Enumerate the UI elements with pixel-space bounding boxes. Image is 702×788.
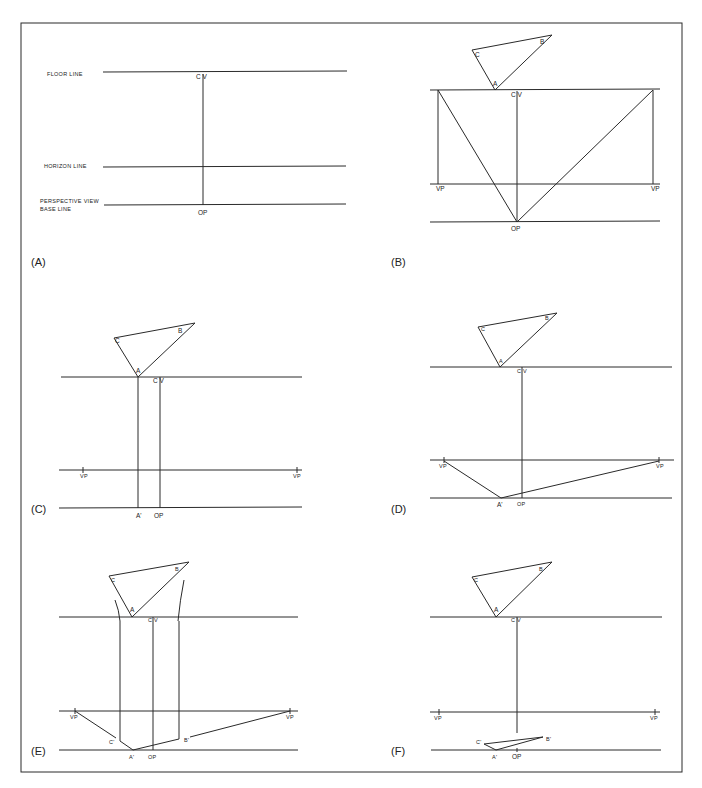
- panel-e: C B A C V VP VP C' B' A' OP (E): [31, 562, 298, 760]
- cv-label: C V: [153, 377, 165, 384]
- vp-right-label: VP: [650, 715, 658, 721]
- vertex-a-label: A: [493, 80, 498, 87]
- a-prime-label: A': [492, 754, 497, 760]
- projector-arc-right: [178, 580, 184, 621]
- op-label: OP: [517, 501, 526, 507]
- cv-label: C V: [148, 617, 158, 623]
- vertex-c-label: C: [474, 577, 478, 583]
- vp-right-label: VP: [293, 473, 301, 479]
- vertex-b-label: B: [175, 566, 179, 572]
- cv-label: C V: [511, 617, 521, 623]
- perspective-triangle: [484, 737, 543, 750]
- panel-d: C B A C V VP VP A' OP (D): [391, 313, 674, 515]
- base-line-label-2: BASE LINE: [40, 206, 71, 212]
- base-line: [430, 221, 660, 222]
- plan-triangle: [114, 323, 195, 377]
- sight-line-right: [517, 90, 653, 222]
- vp-left-label: VP: [80, 473, 88, 479]
- cv-label: C V: [511, 91, 523, 98]
- panel-c: C B A C V VP VP A' OP (C): [31, 323, 302, 519]
- projector-arc-left: [115, 600, 120, 621]
- vp-left-label: VP: [70, 714, 78, 720]
- b-prime-label: B': [184, 737, 189, 743]
- figure-canvas: FLOOR LINE HORIZON LINE PERSPECTIVE VIEW…: [0, 0, 702, 788]
- vp-right-label: VP: [651, 185, 660, 192]
- vp-right-label: VP: [656, 463, 664, 469]
- a-prime-label: A': [497, 501, 503, 508]
- vanishing-line-left: [75, 711, 116, 738]
- vertex-c-label: C: [475, 51, 480, 58]
- vertex-b-label: B: [178, 327, 182, 334]
- cv-label: C V: [196, 73, 208, 80]
- vanishing-line-right: [501, 461, 659, 498]
- panel-b: C B A C V VP VP OP (B): [391, 35, 660, 268]
- horizon-line: [103, 166, 346, 167]
- panel-label: (C): [31, 503, 46, 515]
- panel-label: (D): [391, 503, 406, 515]
- vertex-c-label: C: [115, 337, 120, 344]
- vanishing-line-right: [190, 711, 290, 737]
- vertex-c-label: C: [481, 326, 485, 332]
- vertex-b-label: B: [545, 315, 549, 321]
- vp-right-label: VP: [286, 714, 294, 720]
- cv-label: C V: [517, 368, 527, 374]
- op-label: OP: [154, 512, 163, 519]
- perspective-construction-figure: FLOOR LINE HORIZON LINE PERSPECTIVE VIEW…: [0, 0, 702, 788]
- op-label: OP: [512, 753, 521, 760]
- vp-left-label: VP: [436, 185, 445, 192]
- vertex-b-label: B: [540, 38, 544, 45]
- c-prime-label: C': [109, 739, 115, 745]
- horizon-line-label: HORIZON LINE: [44, 163, 87, 169]
- vertex-a-label: A: [494, 606, 499, 613]
- floor-line: [103, 71, 347, 72]
- floor-line: [430, 89, 660, 90]
- vertex-a-label: A: [130, 606, 135, 613]
- b-prime-label: B': [546, 736, 551, 742]
- op-label: OP: [148, 754, 157, 760]
- perspective-edges: [120, 739, 179, 750]
- a-prime-label: A': [129, 754, 134, 760]
- a-prime-label: A': [136, 512, 142, 519]
- vertex-c-label: C: [111, 577, 115, 583]
- c-prime-label: C': [476, 739, 482, 745]
- vp-left-label: VP: [439, 463, 447, 469]
- op-label: OP: [198, 209, 207, 216]
- vertex-a-label: A: [499, 358, 503, 364]
- plan-triangle: [478, 313, 557, 367]
- vertex-b-label: B: [539, 566, 543, 572]
- sight-line-left: [438, 90, 517, 222]
- vp-left-label: VP: [434, 715, 442, 721]
- panel-label: (E): [31, 745, 46, 757]
- base-line: [59, 507, 302, 508]
- floor-line-label: FLOOR LINE: [47, 71, 83, 77]
- panel-label: (F): [391, 745, 405, 757]
- vanishing-line-left: [444, 461, 501, 498]
- vertex-a-label: A: [136, 367, 141, 374]
- base-line: [104, 204, 346, 205]
- panel-f: C B A C V VP VP C' B' A' OP (F): [391, 562, 662, 760]
- panel-label: (A): [31, 256, 46, 268]
- panel-label: (B): [391, 256, 406, 268]
- base-line-label-1: PERSPECTIVE VIEW: [40, 198, 99, 204]
- panel-a: FLOOR LINE HORIZON LINE PERSPECTIVE VIEW…: [31, 71, 347, 268]
- op-label: OP: [511, 225, 520, 232]
